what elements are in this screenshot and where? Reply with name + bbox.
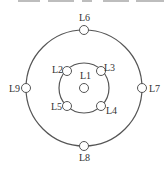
node-l9 (22, 84, 31, 93)
node-l6 (80, 26, 89, 35)
node-label-l2: L2 (52, 64, 63, 75)
node-label-l9: L9 (9, 83, 20, 94)
node-label-l4: L4 (106, 105, 117, 116)
node-label-l7: L7 (149, 83, 160, 94)
node-label-l5: L5 (51, 101, 62, 112)
node-label-l3: L3 (104, 62, 115, 73)
concentric-node-diagram: L1L2L3L4L5L6L7L8L9 (0, 0, 168, 175)
node-l5 (63, 102, 72, 111)
node-l8 (80, 142, 89, 151)
node-label-l6: L6 (79, 12, 90, 23)
node-label-l8: L8 (79, 152, 90, 163)
node-l2 (63, 67, 72, 76)
node-l4 (97, 102, 106, 111)
node-l7 (138, 84, 147, 93)
node-label-l1: L1 (80, 70, 91, 81)
node-l1 (80, 84, 89, 93)
